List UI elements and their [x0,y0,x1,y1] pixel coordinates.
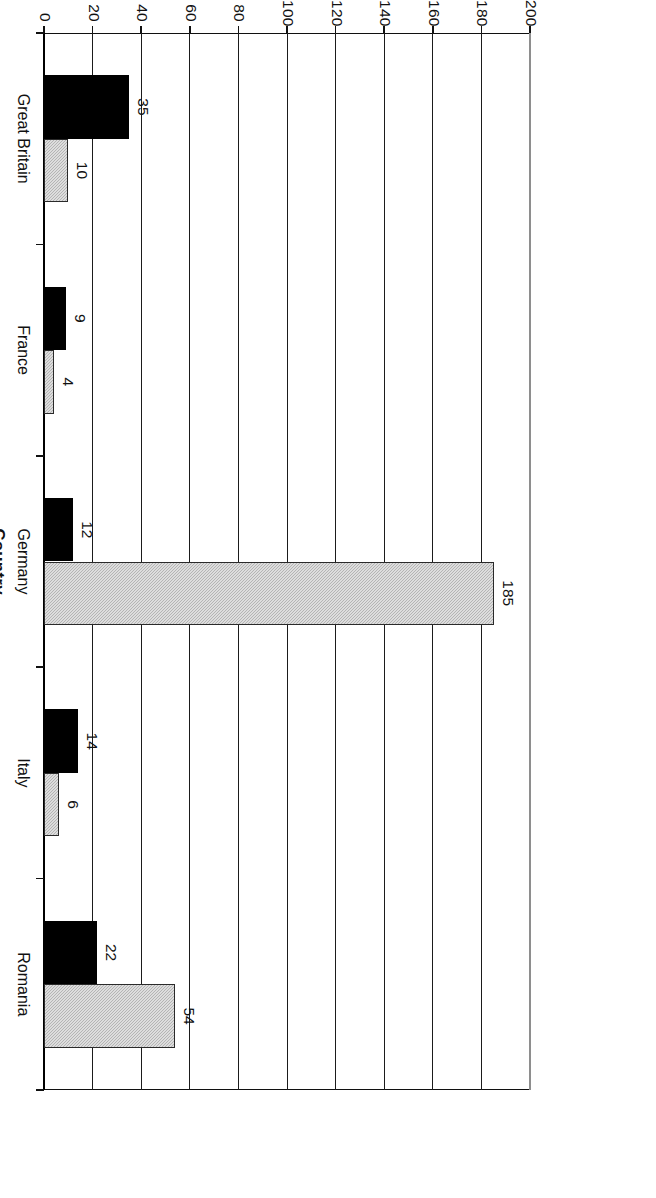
value-tick-100 [286,26,288,33]
bar-germany-series1[interactable] [44,562,494,625]
bar-value-label-great-britain-series1: 10 [73,140,91,200]
bar-romania-series1[interactable] [44,984,175,1047]
value-tick-label-0: 0 [36,0,54,22]
bar-value-label-italy-series1: 6 [64,775,82,835]
value-tick-label-60: 60 [182,0,200,22]
value-tick-label-40: 40 [133,0,151,22]
category-axis-title: Country [0,442,8,682]
value-tick-label-160: 160 [425,0,443,22]
category-tick-4 [36,878,44,880]
category-tick-end [36,1089,44,1091]
rotated-figure-wrapper: Frequency Country Articles Discussing Ec… [0,0,656,1198]
category-label-germany: Germany [14,456,32,667]
bar-value-label-france-series0: 9 [71,288,89,348]
category-label-italy: Italy [14,667,32,878]
value-tick-140 [383,26,385,33]
value-tick-160 [432,26,434,33]
bar-value-label-germany-series1: 185 [499,563,517,623]
value-tick-80 [238,26,240,33]
bar-great-britain-series0[interactable] [44,75,129,138]
bar-value-label-great-britain-series0: 35 [134,77,152,137]
bar-value-label-italy-series0: 14 [83,711,101,771]
value-tick-label-80: 80 [230,0,248,22]
bar-value-label-romania-series0: 22 [102,923,120,983]
category-label-france: France [14,244,32,455]
category-tick-1 [36,244,44,246]
value-tick-40 [140,26,142,33]
category-label-romania: Romania [14,879,32,1090]
value-tick-120 [335,26,337,33]
category-tick-2 [36,455,44,457]
category-tick-0 [36,32,44,34]
value-tick-180 [481,26,483,33]
bar-romania-series0[interactable] [44,921,97,984]
value-tick-label-20: 20 [85,0,103,22]
value-tick-label-180: 180 [473,0,491,22]
value-tick-label-120: 120 [328,0,346,22]
value-tick-label-200: 200 [522,0,540,22]
bar-france-series1[interactable] [44,350,54,413]
bar-france-series0[interactable] [44,287,66,350]
bar-great-britain-series1[interactable] [44,139,68,202]
value-tick-200 [529,26,531,33]
category-tick-3 [36,666,44,668]
bar-italy-series0[interactable] [44,709,78,772]
bar-value-label-france-series1: 4 [59,352,77,412]
bar-chart-figure: Frequency Country Articles Discussing Ec… [0,0,656,1198]
bar-germany-series0[interactable] [44,498,73,561]
value-tick-label-100: 100 [279,0,297,22]
bar-italy-series1[interactable] [44,773,59,836]
gridline-200 [529,33,530,1090]
value-tick-label-140: 140 [376,0,394,22]
category-label-great-britain: Great Britain [14,33,32,244]
bar-value-label-romania-series1: 54 [180,986,198,1046]
value-tick-60 [189,26,191,33]
bar-value-label-germany-series0: 12 [78,500,96,560]
value-tick-20 [92,26,94,33]
